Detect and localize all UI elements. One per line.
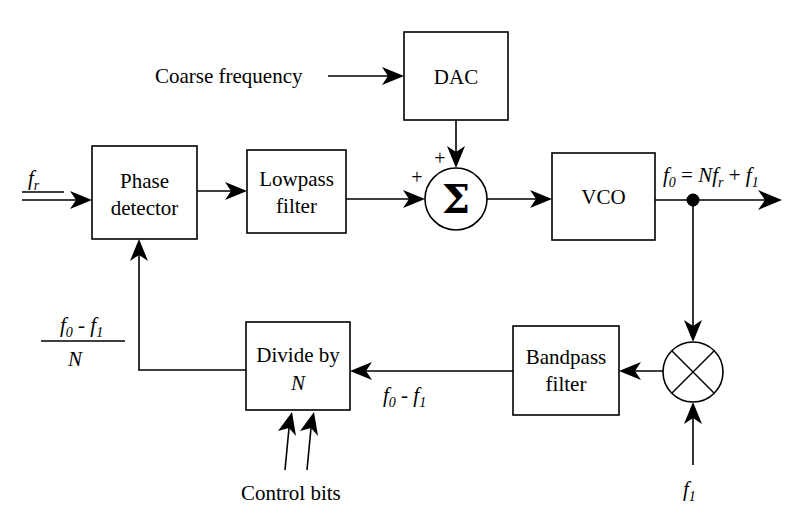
input-fr-label: fr bbox=[22, 166, 64, 193]
out-N: N bbox=[697, 163, 713, 187]
wire-dac-to-summing bbox=[447, 120, 465, 168]
mix-sub: 1 bbox=[689, 489, 696, 504]
output-expression-label: f0 = Nfr + f1 bbox=[663, 163, 759, 190]
fraction-numerator: f0 - f1 bbox=[60, 313, 103, 340]
mixer-multiplier[interactable] bbox=[663, 342, 723, 402]
block-bandpass-filter[interactable]: Bandpass filter bbox=[513, 326, 619, 415]
wire-f1-to-mixer bbox=[684, 402, 702, 465]
lowpass-filter-label-line2: filter bbox=[276, 194, 317, 218]
bandpass-output-label: f0 - f1 bbox=[383, 383, 426, 410]
wire-output-node-to-mixer bbox=[684, 200, 702, 342]
out-eq: = bbox=[676, 163, 698, 187]
wire-vco-output bbox=[655, 190, 782, 210]
fr-sub: r bbox=[34, 178, 40, 193]
block-vco[interactable]: VCO bbox=[552, 153, 655, 240]
bandpass-filter-label-line1: Bandpass bbox=[526, 345, 607, 369]
control-bits-label: Control bits bbox=[241, 481, 341, 505]
out-plus: + bbox=[724, 163, 746, 187]
out-sub: 0 bbox=[669, 175, 676, 190]
phase-detector-label-line2: detector bbox=[111, 196, 179, 220]
block-divide-by-n[interactable]: Divide by N bbox=[246, 322, 350, 410]
block-diagram-canvas: Phase detector Lowpass filter DAC VCO Di… bbox=[0, 0, 799, 517]
frac-f1-sub: 1 bbox=[96, 325, 103, 340]
frac-minus: - bbox=[73, 313, 91, 337]
block-lowpass-filter[interactable]: Lowpass filter bbox=[247, 150, 346, 233]
mixer-input-f1-label: f1 bbox=[683, 477, 696, 504]
vco-label: VCO bbox=[581, 185, 625, 209]
wire-lowpass-to-summing bbox=[346, 190, 425, 208]
wire-coarse-frequency-to-dac bbox=[328, 67, 404, 85]
sigma-symbol: Σ bbox=[442, 175, 470, 222]
divide-by-n-label-line1: Divide by bbox=[256, 343, 340, 367]
block-dac[interactable]: DAC bbox=[404, 32, 508, 120]
block-phase-detector[interactable]: Phase detector bbox=[92, 146, 197, 239]
wire-fr-to-phase-detector bbox=[22, 191, 92, 209]
bp-f1-sub: 1 bbox=[419, 395, 426, 410]
wire-summing-to-vco bbox=[487, 190, 552, 208]
phase-detector-label-line1: Phase bbox=[120, 169, 169, 193]
feedback-fraction-label: f0 - f1 N bbox=[41, 313, 125, 371]
summing-plus-left: + bbox=[411, 166, 422, 188]
bp-minus: - bbox=[396, 383, 414, 407]
wire-divide-to-phase-detector bbox=[130, 239, 246, 370]
wire-bandpass-to-divide bbox=[350, 362, 513, 380]
out-f1-sub: 1 bbox=[752, 175, 759, 190]
fraction-denominator: N bbox=[67, 347, 83, 371]
divide-by-n-label-line2: N bbox=[290, 371, 306, 395]
bp-f0-sub: 0 bbox=[389, 395, 396, 410]
dac-label: DAC bbox=[434, 65, 478, 89]
lowpass-filter-label-line1: Lowpass bbox=[259, 167, 334, 191]
svg-text:fr: fr bbox=[28, 166, 40, 193]
coarse-frequency-label: Coarse frequency bbox=[155, 64, 303, 88]
summing-plus-top: + bbox=[434, 147, 445, 169]
frac-f0-sub: 0 bbox=[66, 325, 73, 340]
wire-mixer-to-bandpass bbox=[619, 362, 663, 380]
wire-phase-detector-to-lowpass bbox=[197, 182, 247, 200]
wire-control-bits-left bbox=[278, 412, 296, 470]
bandpass-filter-label-line2: filter bbox=[546, 372, 587, 396]
wire-control-bits-right bbox=[300, 412, 318, 470]
summing-junction[interactable]: Σ + + bbox=[411, 147, 487, 230]
